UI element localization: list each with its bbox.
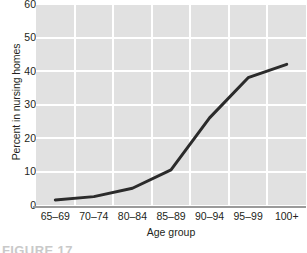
y-tick-label: 60 bbox=[14, 0, 36, 10]
data-series-line bbox=[36, 4, 306, 205]
y-tick-label: 10 bbox=[14, 166, 36, 177]
x-axis-title: Age group bbox=[36, 226, 306, 238]
y-axis-tick-labels: 0102030405060 bbox=[14, 0, 36, 215]
plot-area bbox=[36, 4, 306, 205]
figure-line-chart: Percent in nursing homes 0102030405060 6… bbox=[0, 0, 307, 253]
x-axis-tick-labels: 65–6970–7480–8485–8990–9495–99100+ bbox=[36, 210, 306, 224]
y-tick-label: 50 bbox=[14, 32, 36, 43]
x-axis-line bbox=[33, 206, 306, 208]
series-polyline bbox=[55, 64, 286, 200]
figure-caption: FIGURE 17 bbox=[2, 243, 73, 253]
y-tick-label: 0 bbox=[14, 200, 36, 211]
y-tick-label: 30 bbox=[14, 99, 36, 110]
y-tick-label: 20 bbox=[14, 133, 36, 144]
x-tick-label: 100+ bbox=[263, 210, 307, 222]
y-tick-label: 40 bbox=[14, 66, 36, 77]
